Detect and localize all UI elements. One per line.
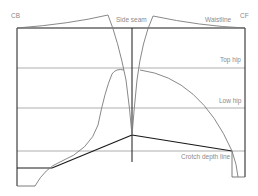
low-hip-label: Low hip (219, 98, 241, 105)
side-seam-label: Side seam (116, 17, 147, 24)
back-waist-curve (17, 15, 108, 28)
cb-label: CB (11, 13, 20, 20)
front-waist-curve (153, 16, 245, 28)
front-side-seam-curve (132, 16, 153, 135)
back-crotch-curve (35, 70, 124, 187)
back-crotch-diagonal (52, 135, 132, 168)
waistline-label: Waistline (205, 17, 231, 24)
crotch-depth-line-label: Crotch depth line (181, 154, 230, 161)
front-hip-curve (140, 70, 238, 177)
cf-label: CF (240, 13, 249, 20)
top-hip-label: Top hip (220, 57, 241, 64)
front-crotch-diagonal (132, 135, 232, 151)
